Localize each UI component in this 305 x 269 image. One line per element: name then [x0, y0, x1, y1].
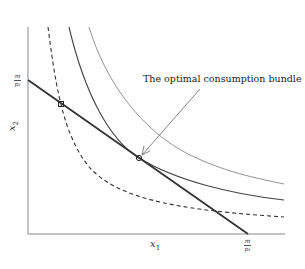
indifference-curve-tangent: [69, 27, 284, 200]
y-axis-label: x2: [6, 121, 20, 131]
diagram-canvas: [0, 0, 305, 269]
x-axis-label: x1: [150, 238, 160, 252]
optimal-bundle-annotation: The optimal consumption bundle: [143, 73, 302, 84]
annotation-arrow: [142, 89, 200, 155]
x-intercept-label: m p₁: [244, 238, 251, 252]
budget-line: [28, 80, 248, 234]
indifference-curve-high: [89, 27, 284, 184]
y-intercept-label: m p₂: [14, 73, 21, 87]
indifference-curve-low: [48, 27, 284, 217]
optimal-consumption-diagram: The optimal consumption bundle x1 x2 m p…: [0, 0, 305, 269]
